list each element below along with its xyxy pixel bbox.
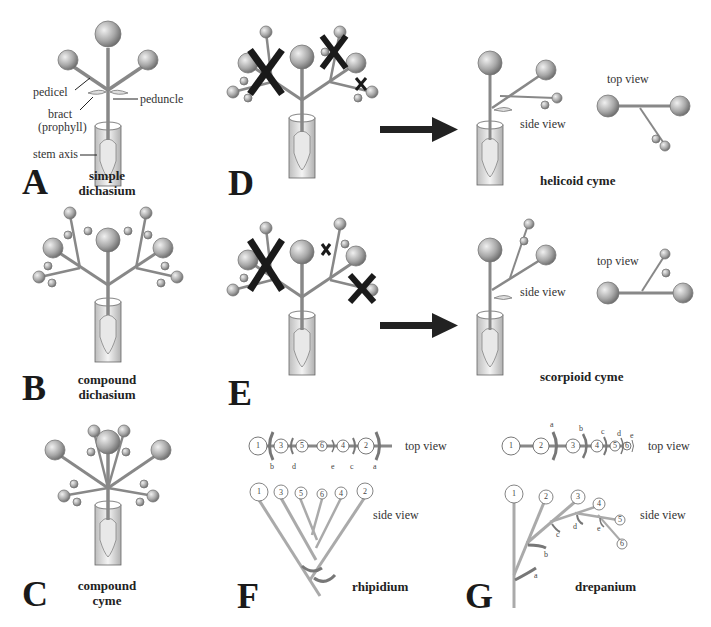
drep-side-bract-c: c [556,530,560,539]
drep-side-flower-1: 1 [512,489,516,498]
helicoid-top-view-label: top view [607,73,649,86]
drep-side-flower-6: 6 [620,539,624,548]
label-prophyll: (prophyll) [38,121,87,134]
rhip-side-view-label: side view [373,509,419,522]
rhip-bract-a: a [373,462,377,471]
rhip-top-flower-4: 4 [341,441,345,450]
panel-a-title-line1: simple [72,168,142,183]
rhip-top-flower-6: 6 [320,441,324,450]
drep-top-flower-5: 5 [613,441,617,450]
panel-b-title-line2: dichasium [72,387,142,402]
panel-b-title: compound dichasium [72,372,142,402]
rhip-top-view-label: top view [405,440,447,453]
drep-top-flower-2: 2 [539,441,543,450]
label-peduncle: peduncle [140,93,183,106]
rhip-side-flower-3: 3 [279,488,283,497]
drep-top-flower-3: 3 [571,441,575,450]
rhip-top-flower-5: 5 [300,441,304,450]
rhip-bract-c: c [350,462,354,471]
helicoid-top-drawing [597,95,690,151]
rhip-bract-e: e [331,462,335,471]
panel-b-drawing [33,207,183,362]
panel-c-title-line1: compound [72,578,142,593]
drep-top-bract-b: b [579,424,583,433]
drep-top-bract-c: c [601,427,605,436]
panel-b-title-line1: compound [72,372,142,387]
panel-letter-f: F [237,578,259,614]
rhip-side-flower-5: 5 [299,489,303,498]
drepanium-title: drepanium [575,579,636,594]
helicoid-cyme-title: helicoid cyme [540,173,615,188]
drep-top-bract-d: d [617,429,621,438]
rhip-side-flower-1: 1 [257,487,261,496]
panel-c-drawing [45,425,171,565]
drep-top-bract-a: a [550,420,554,429]
helicoid-side-view-label: side view [520,118,566,131]
drep-side-flower-2: 2 [544,492,548,501]
rhip-top-flower-1: 1 [256,441,260,450]
drep-top-flower-1: 1 [509,441,513,450]
panel-c-title-line2: cyme [72,593,142,608]
rhip-bract-b: b [270,462,274,471]
drep-top-flower-4: 4 [595,441,599,450]
panel-letter-g: G [465,578,493,614]
rhip-bract-d: d [292,462,296,471]
arrow-d-icon [380,117,458,142]
drep-side-bract-a: a [534,571,538,580]
panel-a-title: simple dichasium [72,168,142,198]
drep-top-bract-e: e [630,431,634,440]
panel-c-title: compound cyme [72,578,142,608]
panel-letter-a: A [22,164,48,200]
rhip-side-flower-4: 4 [339,489,343,498]
drep-side-flower-5: 5 [618,515,622,524]
rhipidium-title: rhipidium [352,579,408,594]
panel-letter-c: C [22,576,48,612]
drep-side-bract-d: d [573,522,577,531]
arrow-e-icon [380,313,458,338]
drep-top-view-label: top view [648,440,690,453]
drep-side-flower-3: 3 [576,492,580,501]
drep-side-bract-e: e [597,524,601,533]
panel-a-title-line2: dichasium [72,183,142,198]
scorpioid-top-view-label: top view [597,255,639,268]
drep-side-bract-b: b [544,550,548,559]
drep-side-flower-4: 4 [597,499,601,508]
rhip-side-flower-2: 2 [363,487,367,496]
rhip-top-flower-2: 2 [364,441,368,450]
drep-top-flower-6: 6 [625,441,629,450]
inflorescence-diagram-artwork [0,0,711,627]
drep-side-view-label: side view [640,509,686,522]
rhip-side-flower-6: 6 [320,490,324,499]
rhip-top-flower-3: 3 [279,441,283,450]
panel-d-drawing [227,26,378,178]
scorpioid-side-view-label: side view [520,286,566,299]
label-stem-axis: stem axis [33,148,78,161]
label-pedicel: pedicel [33,86,68,99]
panel-letter-d: D [228,165,254,201]
panel-letter-e: E [228,375,252,411]
panel-letter-b: B [22,370,46,406]
scorpioid-cyme-title: scorpioid cyme [540,369,623,384]
